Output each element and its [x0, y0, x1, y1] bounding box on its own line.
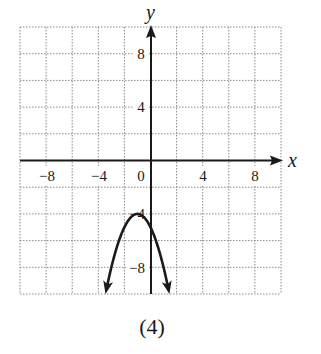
x-axis-label: x	[287, 149, 297, 171]
y-tick-label: −8	[129, 260, 145, 276]
y-tick-label: 8	[137, 46, 145, 62]
y-axis-label: y	[144, 1, 155, 24]
x-tick-label: 8	[251, 168, 259, 184]
x-tick-label: 0	[137, 168, 145, 184]
coordinate-graph: y x −8 −4 0 4 8 8 4 −4 −8 (4)	[0, 0, 321, 354]
x-tick-label: 4	[199, 168, 207, 184]
figure-caption: (4)	[139, 314, 165, 339]
y-tick-label: 4	[137, 99, 145, 115]
x-tick-label: −8	[39, 168, 55, 184]
x-tick-label: −4	[91, 168, 107, 184]
